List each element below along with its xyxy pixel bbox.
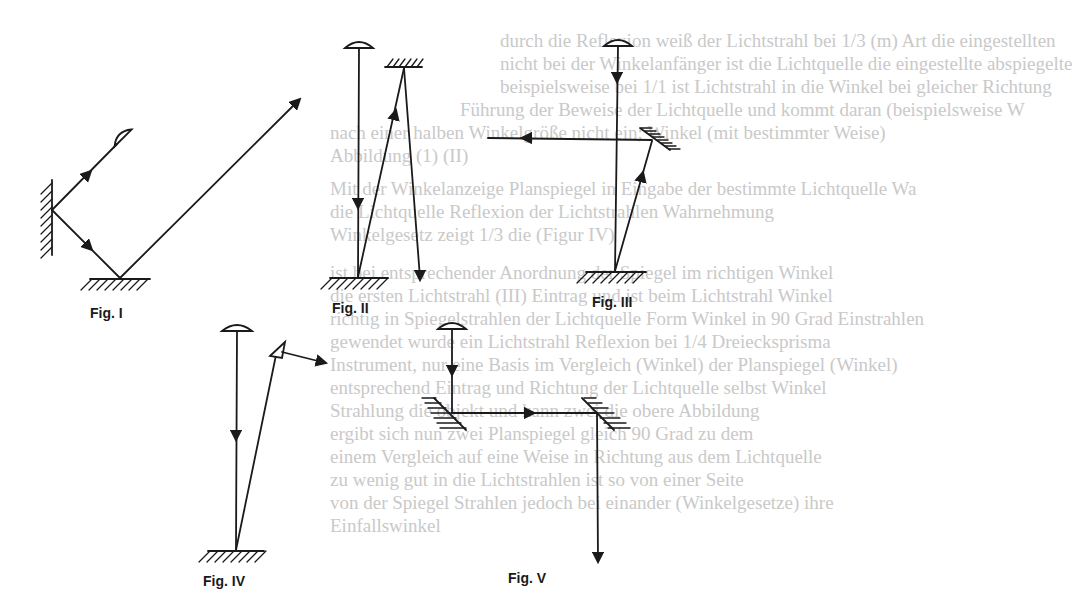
- tilted-mirror-icon: [640, 128, 680, 150]
- incident-ray: [615, 46, 618, 271]
- lamp-icon: [222, 325, 252, 331]
- floor-mirror-icon: [321, 278, 388, 289]
- reflected-ray: [358, 68, 404, 277]
- arrow-icon: [394, 114, 395, 118]
- figure-1: Fig. I: [41, 102, 297, 321]
- exit-ray: [597, 413, 598, 560]
- floor-mirror-icon: [577, 272, 646, 283]
- exit-ray: [404, 68, 420, 278]
- figure-label: Fig. II: [332, 300, 369, 316]
- lamp-icon: [604, 40, 632, 46]
- exit-ray: [282, 352, 322, 362]
- figure-label: Fig. I: [90, 305, 123, 321]
- arrow-icon: [85, 174, 88, 177]
- figure-4: Fig. IV: [199, 325, 322, 589]
- lamp-icon: [345, 42, 373, 48]
- arrow-icon: [293, 102, 297, 106]
- figure-label: Fig. III: [592, 294, 632, 310]
- exit-ray: [488, 138, 652, 140]
- figure-label: Fig. IV: [203, 573, 246, 589]
- figure-2: Fig. II: [321, 42, 423, 316]
- figure-5: Fig. V: [422, 323, 630, 586]
- wall-mirror-icon: [41, 180, 52, 258]
- prism-icon: [270, 342, 285, 358]
- floor-mirror-icon: [199, 551, 266, 562]
- arrow-icon: [318, 361, 322, 362]
- incident-ray: [358, 48, 359, 277]
- incident-ray: [236, 331, 237, 550]
- arrow-icon: [641, 176, 642, 180]
- figure-label: Fig. V: [508, 570, 547, 586]
- figure-3: Fig. III: [488, 40, 680, 310]
- exit-ray: [120, 103, 296, 278]
- floor-mirror-icon: [81, 279, 150, 290]
- lamp-icon: [111, 126, 132, 147]
- reflected-ray: [236, 355, 276, 550]
- mirror-1-icon: [422, 398, 466, 430]
- arrow-icon: [86, 244, 89, 247]
- ceiling-mirror-icon: [385, 59, 423, 67]
- reflected-ray: [615, 141, 652, 271]
- mirror-2-icon: [582, 398, 630, 430]
